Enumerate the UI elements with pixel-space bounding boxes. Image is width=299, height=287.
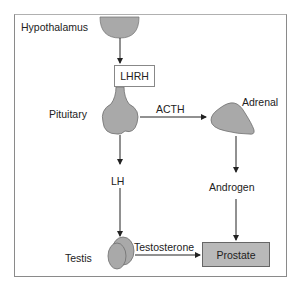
testosterone-label: Testosterone xyxy=(134,241,194,253)
testis-label: Testis xyxy=(65,252,92,264)
testis-shape xyxy=(108,237,134,269)
pituitary-shape xyxy=(102,87,138,134)
lh-label: LH xyxy=(111,175,124,187)
androgen-label: Androgen xyxy=(209,181,255,193)
lhrh-box: LHRH xyxy=(114,65,155,87)
pituitary-label: Pituitary xyxy=(49,108,87,120)
acth-label: ACTH xyxy=(156,103,185,115)
lhrh-label: LHRH xyxy=(120,70,149,82)
hypothalamus-shape xyxy=(100,17,139,38)
prostate-box: Prostate xyxy=(202,242,270,267)
adrenal-label: Adrenal xyxy=(242,96,278,108)
hypothalamus-label: Hypothalamus xyxy=(21,21,88,33)
prostate-label: Prostate xyxy=(216,249,255,261)
